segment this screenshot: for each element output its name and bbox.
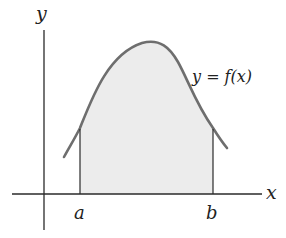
y-axis-label: y xyxy=(35,2,47,24)
curve-label: y = f(x) xyxy=(191,67,252,86)
area-under-curve-diagram: y x a b y = f(x) xyxy=(0,0,286,238)
a-label: a xyxy=(74,202,85,223)
b-label: b xyxy=(206,202,218,223)
shaded-region xyxy=(80,42,213,194)
x-axis-label: x xyxy=(266,181,277,203)
